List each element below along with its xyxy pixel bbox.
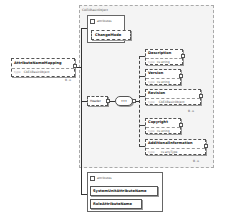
- children-trunk: [139, 56, 140, 147]
- sequence-symbol: •••: [116, 97, 132, 103]
- type-label: type: [14, 71, 21, 74]
- root-cardinality: 0..∞: [65, 78, 71, 82]
- collapse-icon[interactable]: [90, 19, 95, 24]
- expand-icon[interactable]: [199, 94, 203, 98]
- expand-icon[interactable]: [179, 123, 183, 127]
- attributes-header: attributes: [88, 16, 124, 27]
- element-name: Version: [146, 70, 180, 78]
- attributes-label: attributes: [97, 177, 112, 180]
- type-value: CAEXBasicObject: [24, 71, 50, 74]
- sequence-compositor[interactable]: •••: [115, 96, 133, 106]
- element-name: AttributeNameMapping: [12, 59, 74, 68]
- base-type-label: CAEXBasicObject: [82, 9, 108, 12]
- attribute-name: ChangeMode: [92, 31, 130, 41]
- expand-icon[interactable]: [73, 64, 77, 68]
- element-AdditionalInformation[interactable]: AdditionalInformation type xs:anyType: [145, 139, 206, 155]
- element-Description[interactable]: Description type xs:string: [145, 49, 183, 65]
- type-value: xs:string: [157, 81, 170, 84]
- type-label: type: [148, 151, 155, 154]
- type-row: type xs:string: [146, 58, 182, 66]
- trunk-line: [81, 28, 82, 195]
- type-label: type: [148, 81, 155, 84]
- element-name: Copyright: [146, 119, 180, 127]
- type-value: xs:string: [157, 61, 170, 64]
- type-row: type xs:anyType: [146, 148, 205, 156]
- expand-icon[interactable]: [106, 99, 110, 103]
- expand-icon[interactable]: [179, 74, 183, 78]
- type-row: type CAEXBasicObject: [12, 68, 74, 76]
- element-name: Revision: [146, 90, 200, 98]
- element-Header[interactable]: Header: [87, 96, 108, 106]
- revision-cardinality: 0..∞: [188, 109, 194, 113]
- type-row: type xs:string: [146, 78, 180, 86]
- additionalinformation-cardinality: 0..∞: [193, 159, 199, 163]
- element-Version[interactable]: Version type xs:string: [145, 69, 181, 85]
- attribute-ChangeMode[interactable]: ChangeMode: [91, 30, 131, 40]
- element-name: Header: [88, 97, 107, 106]
- expand-icon[interactable]: [132, 99, 136, 103]
- collapse-icon[interactable]: [90, 176, 95, 181]
- type-row: type xs:string: [146, 127, 180, 135]
- attributes-header: attributes: [88, 173, 162, 184]
- attribute-SystemUnitAttributeName[interactable]: SystemUnitAttributeName: [90, 186, 158, 196]
- attributes-label: attributes: [97, 20, 112, 23]
- element-name: Description: [146, 50, 182, 58]
- attribute-name: SystemUnitAttributeName: [91, 187, 157, 197]
- expand-icon[interactable]: [204, 144, 208, 148]
- expand-icon[interactable]: [181, 54, 185, 58]
- type-value: CAEXBasicObject: [159, 101, 185, 104]
- type-label: type: [148, 61, 155, 64]
- attribute-RoleAttributeName[interactable]: RoleAttributeName: [90, 199, 142, 209]
- type-label: type: [148, 101, 155, 104]
- type-row: type CAEXBasicObject: [146, 98, 200, 106]
- type-value: xs:string: [157, 130, 170, 133]
- type-value: xs:anyType: [161, 151, 178, 154]
- element-Revision[interactable]: Revision type CAEXBasicObject: [145, 89, 201, 105]
- element-Copyright[interactable]: Copyright type xs:string: [145, 118, 181, 134]
- type-label: type: [148, 130, 155, 133]
- root-element-AttributeNameMapping[interactable]: AttributeNameMapping type CAEXBasicObjec…: [11, 58, 75, 77]
- attribute-name: RoleAttributeName: [91, 200, 141, 210]
- element-name: AdditionalInformation: [146, 140, 205, 148]
